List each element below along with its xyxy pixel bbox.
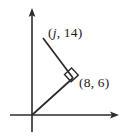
label-right-point-xvalue: 8 xyxy=(84,75,91,90)
label-right-point-yvalue: 6 xyxy=(98,75,105,90)
label-top-point-close: ) xyxy=(78,25,83,40)
label-right-point: (8, 6) xyxy=(79,76,109,90)
label-top-point: (j, 14) xyxy=(48,26,82,40)
segment-origin-to-vertex xyxy=(32,78,73,115)
label-top-point-separator: , xyxy=(57,25,64,40)
segment-vertex-to-top-point xyxy=(43,38,73,78)
label-top-point-yvalue: 14 xyxy=(64,25,78,40)
figure-canvas xyxy=(0,0,124,138)
geometry-figure: (j, 14) (8, 6) xyxy=(0,0,124,138)
label-right-point-separator: , xyxy=(91,75,98,90)
label-right-point-close: ) xyxy=(105,75,110,90)
